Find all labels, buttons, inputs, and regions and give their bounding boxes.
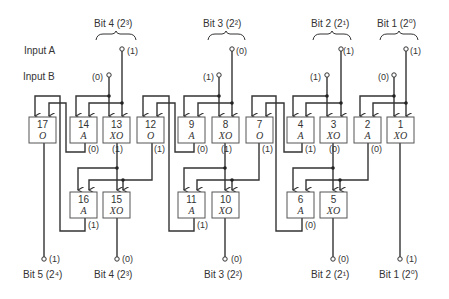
input-group-bit1: Bit 1 (2⁰) — [377, 18, 418, 40]
input-b-pin-bit2 — [325, 73, 329, 77]
output-label: Bit 3 (2²) — [204, 269, 242, 280]
gate-type: O — [256, 130, 263, 141]
binary-adder-circuit-diagram: Input A Input B Bit 4 (2³) Bit 3 (2²) Bi… — [0, 0, 449, 299]
gate-10: 10 XO — [212, 192, 239, 218]
gate-9: 9 A (0) — [178, 117, 208, 154]
input-b-pin-bit4 — [107, 73, 111, 77]
output-label: Bit 4 (2³) — [94, 269, 132, 280]
group-label: Bit 2 (2¹) — [311, 18, 349, 29]
gate-output-value: (1) — [262, 144, 273, 154]
gate-type: A — [79, 130, 87, 141]
gate-15: 15 XO — [103, 192, 130, 218]
gate-13: 13 XO (1) — [103, 117, 130, 154]
input-a-pin-bit1 — [404, 47, 408, 51]
gate-type: A — [363, 130, 371, 141]
input-b-value: (1) — [203, 72, 214, 82]
input-a-pin-bit4 — [120, 47, 124, 51]
output-bit2: (0) Bit 2 (2¹) — [311, 254, 349, 280]
gate-number: 17 — [37, 119, 49, 130]
gate-number: 13 — [111, 119, 123, 130]
gate-number: 14 — [78, 119, 90, 130]
output-pin — [223, 257, 227, 261]
brace-icon — [208, 31, 245, 40]
gate-type: XO — [109, 130, 123, 141]
gate-output-value: (1) — [88, 220, 99, 230]
output-bit1: (1) Bit 1 (2⁰) — [379, 254, 418, 280]
group-label: Bit 1 (2⁰) — [377, 18, 416, 29]
gate-output-value: (1) — [112, 144, 123, 154]
gate-type: XO — [218, 205, 232, 216]
gate-output-value: (0) — [88, 144, 99, 154]
output-value: (0) — [231, 254, 242, 264]
input-b-value: (1) — [310, 72, 321, 82]
gate-type: A — [187, 205, 195, 216]
output-label: Bit 5 (2⁴) — [23, 269, 62, 280]
output-pin — [331, 257, 335, 261]
gate-17: 17 O — [29, 117, 56, 143]
gate-number: 1 — [398, 119, 404, 130]
gate-number: 11 — [186, 194, 197, 205]
gate-output-value: (0) — [371, 144, 382, 154]
output-bit5: (1) Bit 5 (2⁴) — [23, 254, 62, 280]
gate-type: A — [79, 205, 87, 216]
gate-number: 7 — [257, 119, 263, 130]
group-label: Bit 3 (2²) — [203, 18, 241, 29]
input-b-pin-bit3 — [217, 73, 221, 77]
output-value: (0) — [122, 254, 133, 264]
gate-type: XO — [109, 205, 123, 216]
input-a-pin-bit2 — [339, 47, 343, 51]
input-group-bit4: Bit 4 (2³) — [94, 18, 136, 40]
input-a-pin-bit3 — [230, 47, 234, 51]
output-value: (1) — [49, 254, 60, 264]
gate-type: XO — [393, 130, 407, 141]
input-a-value: (1) — [343, 46, 354, 56]
gate-number: 3 — [331, 119, 337, 130]
input-a-value: (1) — [127, 46, 138, 56]
output-bit4: (0) Bit 4 (2³) — [94, 254, 133, 280]
gate-number: 6 — [298, 194, 304, 205]
gate-1: 1 XO — [387, 117, 414, 143]
output-value: (1) — [406, 254, 417, 264]
gate-type: A — [187, 130, 195, 141]
gate-output-value: (0) — [197, 144, 208, 154]
gate-11: 11 A (1) — [178, 192, 208, 230]
gate-type: XO — [326, 130, 340, 141]
input-group-bit2: Bit 2 (2¹) — [311, 18, 351, 40]
brace-icon — [313, 31, 351, 40]
gate-3: 3 XO (0) — [320, 117, 347, 154]
brace-icon — [96, 31, 136, 40]
gate-output-value: (1) — [221, 144, 232, 154]
output-label: Bit 1 (2⁰) — [379, 269, 418, 280]
output-label: Bit 2 (2¹) — [311, 269, 349, 280]
input-a-value: (1) — [410, 46, 421, 56]
gate-number: 2 — [365, 119, 371, 130]
gate-number: 16 — [78, 194, 90, 205]
input-b-value: (0) — [92, 72, 103, 82]
input-group-bit3: Bit 3 (2²) — [203, 18, 245, 40]
input-b-label: Input B — [23, 71, 55, 82]
gate-number: 10 — [220, 194, 232, 205]
gate-type: XO — [218, 130, 232, 141]
gate-type: XO — [326, 205, 340, 216]
gate-number: 9 — [189, 119, 195, 130]
gate-number: 15 — [111, 194, 123, 205]
gate-number: 4 — [298, 119, 304, 130]
gate-type: O — [147, 130, 154, 141]
gate-output-value: (0) — [329, 144, 340, 154]
gate-output-value: (1) — [154, 144, 165, 154]
gate-8: 8 XO (1) — [212, 117, 239, 154]
gate-12: 12 O (1) — [137, 117, 165, 154]
output-value: (0) — [338, 254, 349, 264]
gate-5: 5 XO — [320, 192, 347, 218]
gate-type: A — [296, 205, 304, 216]
group-label: Bit 4 (2³) — [94, 18, 132, 29]
output-bit3: (0) Bit 3 (2²) — [204, 254, 242, 280]
gate-output-value: (0) — [305, 220, 316, 230]
gate-output-value: (1) — [197, 220, 208, 230]
gate-type: O — [39, 130, 46, 141]
input-b-pin-bit1 — [392, 73, 396, 77]
output-pin — [115, 257, 119, 261]
input-pins — [107, 47, 408, 77]
output-pin — [398, 257, 402, 261]
input-a-label: Input A — [24, 45, 55, 56]
